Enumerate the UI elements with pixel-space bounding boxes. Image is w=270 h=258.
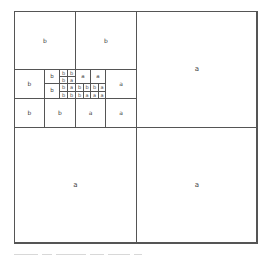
quadtree-cell-r2-c4: a <box>105 98 137 128</box>
quadtree-cell-r2-c3: a <box>75 98 106 128</box>
caption-fragment <box>134 254 142 255</box>
quadtree-cell-q-bl: a <box>14 127 137 244</box>
caption-fragment <box>42 254 52 255</box>
quadtree-cell-tl-a: b <box>14 11 76 70</box>
quadtree-cell-c2-tl: b <box>44 69 60 84</box>
quadtree-cell-q-br: a <box>136 127 258 244</box>
figure-caption-cropped <box>14 254 184 258</box>
quadtree-cell-r1-c4: a <box>105 69 137 99</box>
caption-fragment <box>14 254 38 255</box>
caption-fragment <box>56 254 86 255</box>
quadtree-cell-r1-c1: b <box>14 69 45 99</box>
quadtree-cell-tl-b: b <box>75 11 137 70</box>
quadtree-cell-f4-4: a <box>98 91 106 99</box>
quadtree-cell-r2-c2: b <box>44 98 76 128</box>
quadtree-cell-c2-bl: b <box>44 83 60 99</box>
quadtree-cell-r2-c1: b <box>14 98 45 128</box>
quadtree-cell-c3-tr: a <box>90 69 106 84</box>
quadtree-cell-q-tr: a <box>136 11 258 128</box>
caption-fragment <box>108 254 130 255</box>
quadtree-cell-c3-tl: a <box>75 69 91 84</box>
quadtree-diagram: aaabbbabbaabbaabbbababbbbbabaaa <box>0 0 270 258</box>
caption-fragment <box>90 254 104 255</box>
